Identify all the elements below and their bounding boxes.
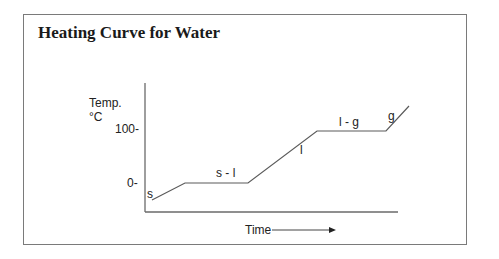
y-tick-0: 0- (127, 176, 138, 190)
x-axis-label: Time (245, 223, 272, 237)
y-axis-label-unit: °C (89, 110, 103, 124)
phase-label-solid: s (147, 187, 153, 201)
y-tick-100: 100- (115, 122, 139, 136)
y-axis-label-temp: Temp. (89, 96, 122, 110)
phase-label-gas: g (388, 109, 395, 123)
phase-label-liquid-gas: l - g (339, 115, 359, 129)
phase-label-solid-liquid: s - l (216, 166, 235, 180)
heating-curve-chart: Temp. °C 100- 0- s s - l l l - g g Time (0, 0, 499, 259)
heating-curve-line (152, 106, 409, 200)
time-arrow-head-icon (329, 227, 336, 233)
phase-label-liquid: l (300, 143, 303, 157)
